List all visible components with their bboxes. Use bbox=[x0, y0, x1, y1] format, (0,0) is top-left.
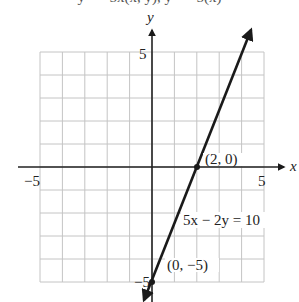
equation-label: 5x − 2y = 10 bbox=[183, 212, 260, 228]
point-label-x-intercept: (2, 0) bbox=[205, 151, 238, 168]
point-x-intercept bbox=[194, 164, 200, 170]
y-max-tick-label: 5 bbox=[139, 46, 147, 62]
point-y-intercept bbox=[149, 279, 155, 285]
coordinate-graph: x y −5 5 5 −5 (2, 0) (0, −5) 5x − 2y = 1… bbox=[0, 0, 299, 302]
x-min-tick-label: −5 bbox=[24, 173, 40, 189]
y-axis-label: y bbox=[145, 9, 154, 25]
point-label-y-intercept: (0, −5) bbox=[167, 257, 208, 274]
x-max-tick-label: 5 bbox=[258, 173, 266, 189]
x-axis-label: x bbox=[289, 158, 297, 174]
